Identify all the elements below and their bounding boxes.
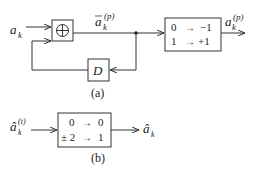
caption-b: (b) — [91, 151, 105, 165]
map-a-row1-from: 1 — [171, 35, 177, 47]
input-a-k-sub: k — [18, 30, 23, 40]
output-b-label: â — [143, 121, 150, 136]
map-a-row1-to: +1 — [198, 35, 210, 47]
map-a-row1-arrow: → — [185, 36, 195, 47]
diagram-b: â (t) k 0 → 0 ± 2 → 1 â k (b) — [10, 113, 155, 165]
output-a-sup: (p) — [233, 12, 244, 22]
output-a-label: a — [225, 14, 232, 29]
feedback-to-delay-arrow — [110, 33, 136, 70]
intermediate-sub: k — [103, 22, 108, 32]
map-b-row1-arrow: → — [82, 132, 92, 143]
map-b-row0-from: 0 — [69, 116, 75, 128]
map-b-row1-to: 1 — [98, 131, 104, 143]
delay-to-sum-arrow — [32, 41, 88, 70]
intermediate-sup: (p) — [104, 11, 115, 21]
caption-a: (a) — [91, 86, 104, 100]
input-b-sup: (t) — [18, 117, 26, 126]
map-b-row1-from: ± 2 — [61, 131, 75, 143]
input-b-sub: k — [18, 128, 22, 137]
input-b-label: â — [10, 119, 17, 134]
delay-label: D — [92, 63, 103, 78]
diagram-a: a k a (p) k 0 → −1 1 → +1 a (p) k — [10, 11, 245, 100]
input-a-k-label: a — [10, 22, 17, 37]
map-a-row0-to: −1 — [200, 21, 212, 33]
output-a-sub: k — [232, 22, 237, 32]
map-b-row0-arrow: → — [82, 117, 92, 128]
map-b-row0-to: 0 — [98, 116, 104, 128]
map-a-row0-arrow: → — [185, 22, 195, 33]
map-a-row0-from: 0 — [171, 21, 177, 33]
output-b-sub: k — [151, 130, 155, 139]
